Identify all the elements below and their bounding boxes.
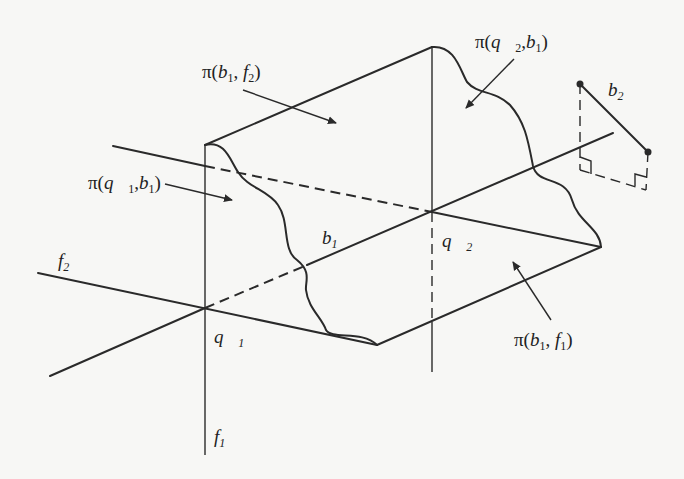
bisector-diagram: π(b1, f2) π(q⃗2,b1) π(q⃗1,b1) π(b1, f1) … (0, 0, 684, 479)
label-f1: f1 (214, 426, 225, 450)
label-f2: f2 (58, 250, 69, 274)
label-b1: b1 (322, 227, 338, 251)
q1-lower-left-line (50, 308, 205, 376)
arrow-pi-q2-b1 (466, 59, 514, 108)
b2-base (580, 170, 646, 190)
b2-perp-b (646, 152, 648, 190)
right-angle-b (635, 174, 646, 186)
label-q2: q⃗2 (442, 230, 472, 254)
left-line (113, 146, 205, 166)
q1-hidden-line (205, 265, 307, 308)
f2-line (38, 273, 377, 345)
arrow-pi-q1-b1 (165, 184, 232, 200)
label-pi-b1-f2: π(b1, f2) (202, 61, 261, 85)
label-b2: b2 (608, 79, 624, 103)
label-pi-q1-b1: π(q⃗1,b1) (88, 172, 161, 196)
label-pi-b1-f1: π(b1, f1) (514, 329, 573, 353)
label-q1: q⃗1 (214, 326, 244, 350)
label-pi-q2-b1: π(q⃗2,b1) (475, 31, 548, 55)
